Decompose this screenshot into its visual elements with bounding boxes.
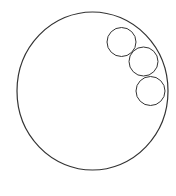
- background: [0, 0, 176, 196]
- circles-diagram: [0, 0, 176, 196]
